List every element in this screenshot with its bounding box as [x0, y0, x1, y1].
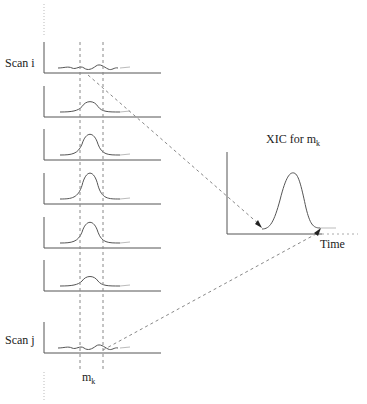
xic-curve — [262, 173, 320, 229]
scan-i-label: Scan i — [5, 56, 35, 71]
xic-x-axis-label: Time — [320, 237, 345, 252]
xic-title-sub: k — [316, 139, 320, 148]
mass-label: mk — [82, 370, 95, 386]
scan-spectrum-curve — [60, 134, 120, 155]
xic-title: XIC for mk — [266, 132, 320, 148]
scan-spectrum-curve — [60, 173, 120, 199]
mass-label-sub: k — [91, 377, 95, 386]
xic-chart — [227, 152, 358, 234]
scan-spectrum-curve — [60, 102, 120, 112]
scan-spectrum-curve — [60, 222, 120, 243]
scan-curve-tail — [120, 285, 130, 286]
scan-curve-tail — [120, 67, 130, 68]
scan-spectrum-curve — [58, 65, 118, 70]
scan-curve-tail — [120, 198, 130, 199]
diagram-canvas — [0, 0, 367, 404]
scan-curve-tail — [120, 111, 130, 112]
scan-curve-tail — [120, 154, 130, 155]
scan-spectrum-curve — [60, 277, 120, 286]
mass-label-base: m — [82, 370, 91, 384]
scan-curve-tail — [120, 242, 130, 243]
scan-j-label: Scan j — [5, 333, 35, 348]
scan-j-connector — [103, 234, 316, 350]
scan-panel-scan-5 — [44, 217, 161, 248]
xic-title-base: XIC for m — [266, 132, 316, 146]
scan-i-connector — [88, 75, 260, 225]
scan-curve-tail — [120, 347, 130, 348]
